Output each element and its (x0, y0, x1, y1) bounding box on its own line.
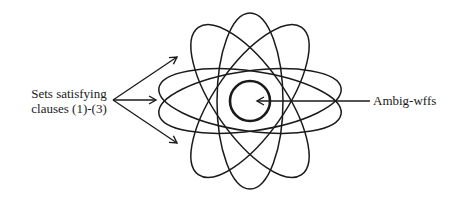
left-label-line1: Sets satisfying (24, 86, 114, 101)
arrow-to-lower-set (113, 100, 177, 143)
ambig-wffs-label: Ambig-wffs (373, 93, 436, 108)
sets-satisfying-clauses-label: Sets satisfying clauses (1)-(3) (24, 86, 114, 116)
arrow-to-upper-set (113, 57, 177, 100)
left-label-line2: clauses (1)-(3) (24, 101, 114, 116)
